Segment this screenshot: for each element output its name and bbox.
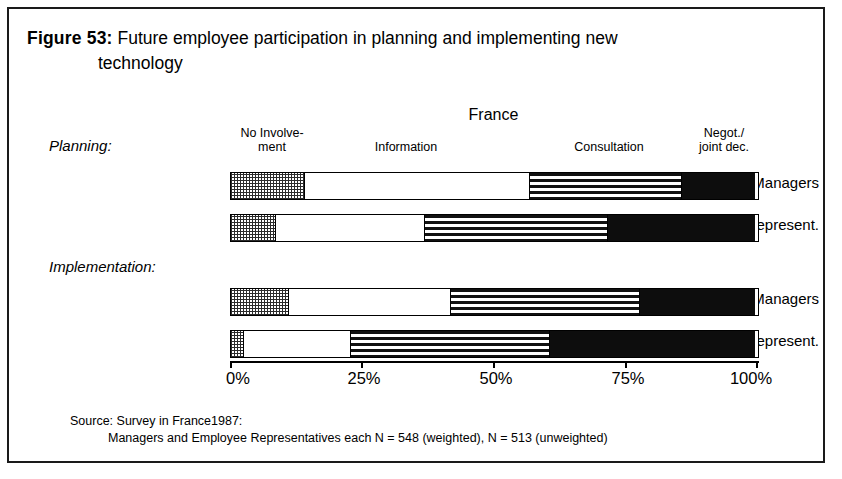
segment-consultation xyxy=(529,173,682,199)
segment-negotiation xyxy=(607,215,755,241)
segment-no-involvement xyxy=(231,173,305,199)
group-label-implementation: Implementation: xyxy=(49,258,156,275)
x-axis-label-25: 25% xyxy=(347,369,380,388)
segment-negotiation xyxy=(549,331,755,357)
segment-no-involvement xyxy=(231,289,289,315)
bar-planning-managers xyxy=(230,172,759,200)
bar-implementation-employee-represent xyxy=(230,330,759,358)
segment-negotiation xyxy=(639,289,755,315)
legend-label-consultation: Consultation xyxy=(534,140,684,154)
segment-negotiation xyxy=(681,173,755,199)
x-axis-label-100: 100% xyxy=(730,369,772,388)
source-note: Source: Survey in France1987: Managers a… xyxy=(70,413,608,447)
x-axis-label-75: 75% xyxy=(611,369,644,388)
chart-subtitle-country: France xyxy=(230,106,757,124)
x-axis-tick-100 xyxy=(756,361,758,368)
legend-label-negotiation: Negot./ joint dec. xyxy=(681,126,767,154)
bar-implementation-managers xyxy=(230,288,759,316)
segment-information xyxy=(243,331,351,357)
segment-no-involvement xyxy=(231,215,276,241)
source-note-line-2: Managers and Employee Representatives ea… xyxy=(70,430,608,447)
segment-information xyxy=(275,215,425,241)
x-axis-tick-50 xyxy=(493,361,495,368)
segment-information xyxy=(288,289,451,315)
group-label-planning: Planning: xyxy=(49,137,112,154)
source-note-line-1: Source: Survey in France1987: xyxy=(70,413,608,430)
chart-area: France No Involve- ment Information Cons… xyxy=(9,9,827,465)
legend-label-information: Information xyxy=(331,140,481,154)
segment-information xyxy=(304,173,531,199)
x-axis-label-0: 0% xyxy=(226,369,250,388)
figure-frame: Figure 53: Future employee participation… xyxy=(7,7,825,463)
bar-planning-employee-represent xyxy=(230,214,759,242)
legend-label-no-involvement: No Involve- ment xyxy=(230,126,314,154)
x-axis-tick-75 xyxy=(625,361,627,368)
segment-consultation xyxy=(350,331,550,357)
segment-consultation xyxy=(424,215,608,241)
x-axis-label-50: 50% xyxy=(479,369,512,388)
x-axis-tick-0 xyxy=(230,361,232,368)
x-axis-tick-25 xyxy=(361,361,363,368)
segment-consultation xyxy=(450,289,640,315)
